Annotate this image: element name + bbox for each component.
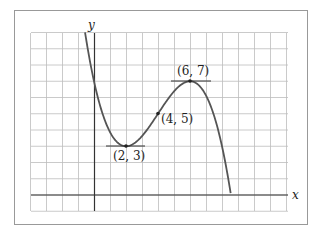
x-axis-label: x: [292, 188, 299, 202]
y-axis-label: y: [87, 18, 95, 32]
point-inflection-label: (4, 5): [161, 112, 193, 126]
point-max-marker: [188, 79, 192, 83]
graph-figure: x y (2, 3) (4, 5) (6, 7): [0, 0, 316, 234]
point-max-label: (6, 7): [177, 64, 209, 78]
point-inflection-marker: [156, 112, 160, 116]
point-min-marker: [124, 144, 128, 148]
point-min-label: (2, 3): [113, 149, 145, 163]
